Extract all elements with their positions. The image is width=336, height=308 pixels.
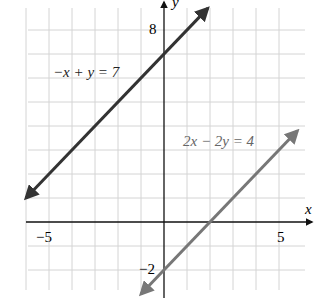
- tick-label-neg2: −2: [139, 261, 155, 277]
- x-axis-label: x: [304, 201, 312, 217]
- equation-label-1: −x + y = 7: [53, 64, 121, 80]
- y-axis-label: y: [170, 0, 179, 10]
- tick-label-neg5: −5: [36, 229, 52, 245]
- tick-label-8: 8: [149, 21, 157, 37]
- coordinate-plane: x y −5 5 8 −2 −x + y = 7 2x − 2y = 4: [0, 0, 336, 308]
- equation-label-2: 2x − 2y = 4: [183, 133, 255, 149]
- tick-label-5: 5: [277, 229, 285, 245]
- line-neg-x-plus-y-eq-7: [26, 8, 208, 198]
